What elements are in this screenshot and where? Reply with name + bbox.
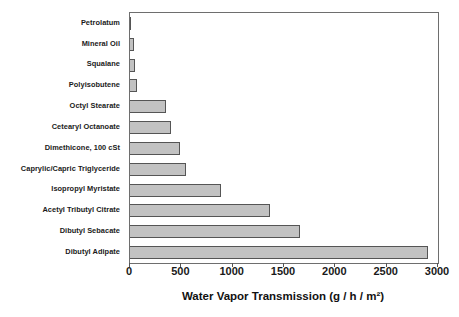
x-axis-tick-labels: 050010001500200025003000 (0, 265, 459, 281)
category-label-cell: Petrolatum (0, 12, 125, 33)
category-label-cell: Mineral Oil (0, 33, 125, 54)
category-label: Cetearyl Octanoate (52, 123, 120, 130)
category-label-cell: Polyisobutene (0, 74, 125, 95)
category-label-cell: Dimethicone, 100 cSt (0, 137, 125, 158)
category-label: Octyl Stearate (70, 102, 120, 109)
category-label-cell: Acetyl Tributyl Citrate (0, 199, 125, 220)
bar (130, 184, 221, 197)
bar (130, 17, 131, 30)
x-tick-label: 1500 (271, 265, 295, 277)
bar (130, 79, 137, 92)
bar (130, 121, 171, 134)
category-label-cell: Isopropyl Myristate (0, 179, 125, 200)
category-label: Caprylic/Capric Triglyceride (21, 165, 120, 172)
bar-row (130, 96, 438, 117)
x-tick-label: 2000 (322, 265, 346, 277)
bar (130, 204, 270, 217)
category-label-cell: Caprylic/Capric Triglyceride (0, 158, 125, 179)
x-tick-label: 500 (171, 265, 189, 277)
category-label-cell: Squalane (0, 54, 125, 75)
bar (130, 225, 300, 238)
category-label: Polyisobutene (69, 81, 120, 88)
category-axis-labels: PetrolatumMineral OilSqualanePolyisobute… (0, 12, 125, 262)
bar (130, 59, 135, 72)
category-label: Dibutyl Adipate (65, 248, 120, 255)
category-label: Mineral Oil (82, 40, 120, 47)
plot-area (129, 12, 439, 264)
bar (130, 100, 166, 113)
bar-row (130, 180, 438, 201)
bar-row (130, 13, 438, 34)
x-tick-label: 0 (126, 265, 132, 277)
category-label-cell: Cetearyl Octanoate (0, 116, 125, 137)
category-label: Squalane (87, 60, 120, 67)
bar-row (130, 117, 438, 138)
bar-series (130, 13, 438, 263)
category-label: Petrolatum (81, 19, 120, 26)
bar-chart: PetrolatumMineral OilSqualanePolyisobute… (0, 0, 459, 317)
x-tick-label: 2500 (373, 265, 397, 277)
bar-row (130, 34, 438, 55)
category-label-cell: Dibutyl Adipate (0, 241, 125, 262)
category-label-cell: Octyl Stearate (0, 95, 125, 116)
category-label: Dibutyl Sebacate (60, 227, 120, 234)
bar-row (130, 200, 438, 221)
bar-row (130, 75, 438, 96)
bar-row (130, 159, 438, 180)
category-label: Acetyl Tributyl Citrate (42, 206, 120, 213)
bar-row (130, 138, 438, 159)
bar (130, 38, 134, 51)
category-label: Dimethicone, 100 cSt (45, 144, 120, 151)
x-tick-label: 1000 (219, 265, 243, 277)
bar (130, 163, 186, 176)
bar-row (130, 221, 438, 242)
bar-row (130, 242, 438, 263)
category-label: Isopropyl Myristate (51, 185, 120, 192)
bar (130, 246, 428, 259)
x-tick-label: 3000 (425, 265, 449, 277)
bar-row (130, 55, 438, 76)
x-axis-title: Water Vapor Transmission (g / h / m²) (129, 290, 437, 302)
category-label-cell: Dibutyl Sebacate (0, 220, 125, 241)
bar (130, 142, 180, 155)
